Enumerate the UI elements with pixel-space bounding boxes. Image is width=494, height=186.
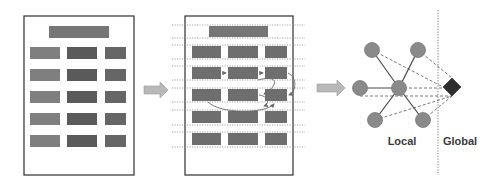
table-cell bbox=[105, 135, 126, 147]
table-cell bbox=[30, 135, 60, 147]
table-cell bbox=[105, 47, 126, 59]
grid-cell bbox=[228, 67, 258, 79]
table-cell bbox=[67, 113, 97, 125]
neighbor-node bbox=[411, 43, 426, 58]
global-label: Global bbox=[443, 135, 477, 147]
local-label: Local bbox=[388, 135, 417, 147]
grid-cell bbox=[228, 133, 258, 145]
neighbor-node bbox=[353, 81, 368, 96]
table-cell bbox=[105, 113, 126, 125]
neighbor-node bbox=[416, 113, 431, 128]
table-cell bbox=[30, 91, 60, 103]
table-cell bbox=[67, 47, 97, 59]
grid-cell bbox=[192, 111, 221, 123]
grid-cell bbox=[265, 133, 287, 145]
grid-cell bbox=[192, 133, 221, 145]
grid-cell bbox=[265, 67, 287, 79]
hub-node bbox=[392, 81, 407, 96]
document-header-bar bbox=[49, 26, 109, 38]
graph-panel: Local Global bbox=[353, 10, 478, 175]
grid-cell bbox=[265, 46, 287, 58]
table-cell bbox=[30, 69, 60, 81]
diagram-canvas: Local Global bbox=[0, 0, 494, 186]
table-cell bbox=[30, 113, 60, 125]
table-cell bbox=[67, 91, 97, 103]
global-edge bbox=[372, 50, 443, 87]
grid-cell bbox=[265, 111, 287, 123]
neighbor-node bbox=[368, 113, 383, 128]
grid-cell bbox=[228, 89, 258, 101]
grid-cell bbox=[228, 111, 258, 123]
document-panel bbox=[24, 16, 134, 175]
flow-arrow-2 bbox=[317, 80, 345, 96]
grid-cell bbox=[192, 89, 221, 101]
table-cell bbox=[105, 91, 126, 103]
table-cell bbox=[30, 47, 60, 59]
grid-panel bbox=[172, 16, 305, 175]
arrow-right-icon bbox=[144, 82, 168, 98]
grid-header-bar bbox=[209, 26, 268, 37]
grid-cell bbox=[228, 46, 258, 58]
neighbor-node bbox=[365, 43, 380, 58]
arrow-right-icon bbox=[317, 80, 345, 96]
table-cell bbox=[67, 135, 97, 147]
table-cell bbox=[67, 69, 97, 81]
table-cell bbox=[105, 69, 126, 81]
grid-cell bbox=[192, 67, 221, 79]
flow-arrow-1 bbox=[144, 82, 168, 98]
global-node-diamond bbox=[443, 78, 461, 96]
grid-cell bbox=[192, 46, 221, 58]
